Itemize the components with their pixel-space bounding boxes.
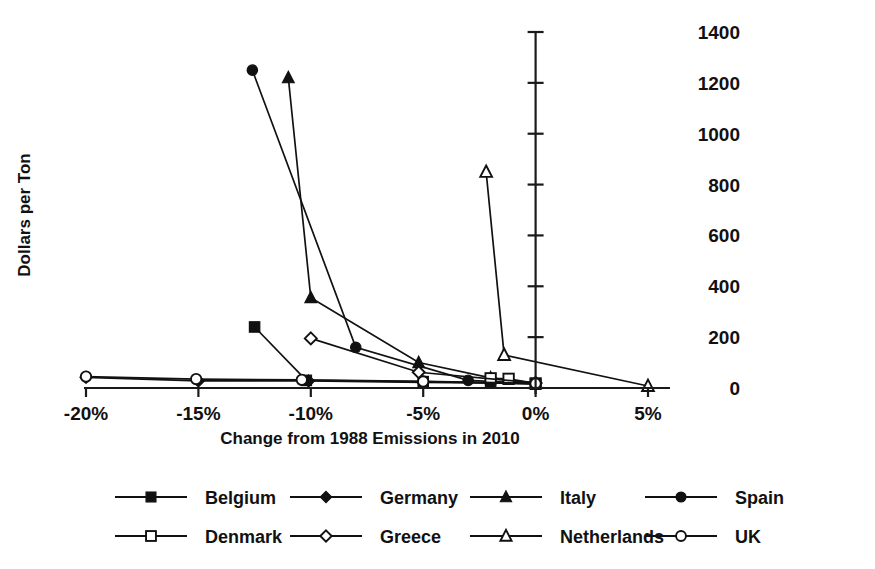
x-axis-title: Change from 1988 Emissions in 2010 [220, 429, 520, 448]
legend-label-italy: Italy [560, 488, 596, 508]
y-tick-label-2: 400 [708, 276, 740, 297]
marker-open-circle-uk-0 [81, 371, 91, 381]
y-tick-label-7: 1400 [698, 22, 740, 43]
chart-background [0, 0, 875, 569]
x-tick-label-1: -15% [176, 403, 220, 424]
x-tick-label-3: -5% [406, 403, 440, 424]
x-tick-label-4: 0% [522, 403, 550, 424]
y-axis-title: Dollars per Ton [15, 153, 34, 276]
legend-label-belgium: Belgium [205, 488, 276, 508]
marker-open-circle-uk-1 [191, 374, 201, 384]
y-tick-label-5: 1000 [698, 124, 740, 145]
x-tick-label-0: -20% [64, 403, 108, 424]
marker-open-circle-legend-uk [676, 531, 686, 541]
marker-open-circle-uk-2 [297, 375, 307, 385]
marker-filled-square-belgium-0 [249, 322, 259, 332]
y-tick-label-6: 1200 [698, 73, 740, 94]
y-tick-label-4: 800 [708, 175, 740, 196]
legend-label-uk: UK [735, 527, 761, 547]
legend-label-germany: Germany [380, 488, 458, 508]
x-tick-label-2: -10% [289, 403, 333, 424]
legend-label-netherlands: Netherlands [560, 527, 664, 547]
x-tick-label-5: 5% [634, 403, 662, 424]
marker-filled-circle-legend-spain [676, 492, 686, 502]
legend-label-spain: Spain [735, 488, 784, 508]
emissions-cost-chart: -20%-15%-10%-5%0%5%020040060080010001200… [0, 0, 875, 569]
marker-open-square-legend-denmark [146, 531, 156, 541]
marker-open-circle-uk-3 [418, 376, 428, 386]
marker-filled-circle-spain-0 [247, 65, 257, 75]
legend-label-greece: Greece [380, 527, 441, 547]
y-tick-label-3: 600 [708, 225, 740, 246]
marker-filled-square-legend-belgium [146, 492, 156, 502]
legend-label-denmark: Denmark [205, 527, 283, 547]
y-tick-label-0: 0 [729, 378, 740, 399]
y-tick-label-1: 200 [708, 327, 740, 348]
